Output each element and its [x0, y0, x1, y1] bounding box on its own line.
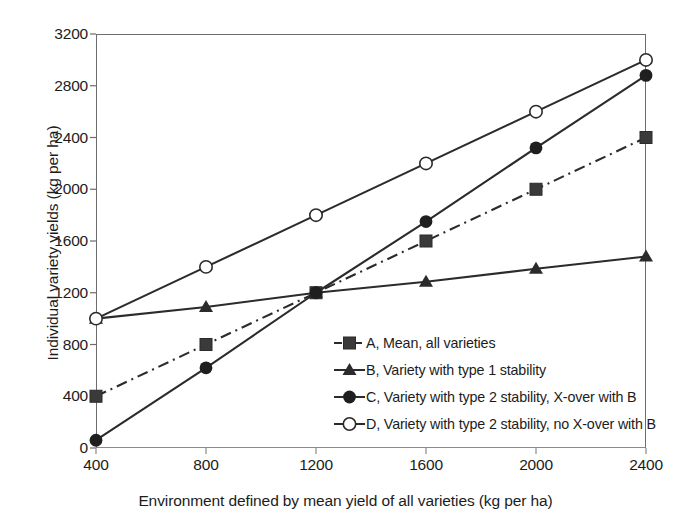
data-point-marker [530, 141, 543, 154]
x-tick-label: 2000 [501, 457, 571, 473]
x-tick-label: 2400 [611, 457, 681, 473]
data-point-marker [639, 250, 653, 262]
data-point-marker [90, 390, 102, 402]
data-point-marker [420, 215, 433, 228]
legend-key-a-dash-dot-square-icon [333, 333, 366, 353]
legend-item-c: C, Variety with type 2 stability, X-over… [333, 383, 646, 410]
data-point-marker [200, 361, 213, 374]
x-tick-label: 1200 [281, 457, 351, 473]
data-point-marker [200, 261, 212, 273]
x-tick-label: 1600 [391, 457, 461, 473]
data-point-marker [200, 339, 212, 351]
scatter-line-chart-figure: 0400800120016002000240028003200 40080012… [0, 0, 691, 528]
data-point-marker [420, 235, 432, 247]
x-axis-title: Environment defined by mean yield of all… [0, 492, 691, 510]
data-point-marker [640, 132, 652, 144]
legend-item-a: A, Mean, all varieties [333, 329, 646, 356]
data-point-marker [640, 69, 653, 82]
y-axis-title: Individual variety yields (kg per ha) [44, 33, 62, 453]
legend-label-d: D, Variety with type 2 stability, no X-o… [366, 416, 656, 432]
legend-item-b: B, Variety with type 1 stability [333, 356, 646, 383]
legend-label-c: C, Variety with type 2 stability, X-over… [366, 389, 637, 405]
data-point-marker [90, 434, 103, 447]
legend-label-a: A, Mean, all varieties [366, 335, 495, 351]
x-axis-tick-labels: 4008001200160020002400 [0, 457, 691, 479]
series-drawing-layer [0, 0, 691, 528]
data-point-marker [530, 105, 542, 117]
legend-item-d: D, Variety with type 2 stability, no X-o… [333, 410, 646, 437]
data-point-marker [640, 54, 652, 66]
data-point-marker [420, 157, 432, 169]
chart-legend: A, Mean, all varieties B, Variety with t… [333, 325, 646, 443]
legend-key-d-open-circle-icon [333, 414, 366, 434]
x-tick-label: 800 [171, 457, 241, 473]
data-point-marker [310, 209, 322, 221]
data-point-marker [90, 312, 102, 324]
legend-key-c-solid-circle-icon [333, 387, 366, 407]
legend-key-b-solid-triangle-icon [333, 360, 366, 380]
data-point-marker [310, 286, 323, 299]
x-tick-label: 400 [61, 457, 131, 473]
data-point-marker [530, 183, 542, 195]
legend-label-b: B, Variety with type 1 stability [366, 362, 546, 378]
